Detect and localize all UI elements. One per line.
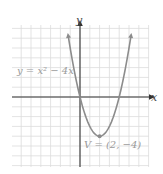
- y-axis-label: y: [76, 15, 82, 26]
- parabola-graph: y = x² − 4x V = (2, −4) x y: [0, 0, 163, 174]
- equation-label: y = x² − 4x: [17, 66, 74, 76]
- x-axis-label: x: [151, 92, 157, 103]
- vertex-point: [98, 134, 102, 138]
- vertex-label: V = (2, −4): [84, 140, 141, 150]
